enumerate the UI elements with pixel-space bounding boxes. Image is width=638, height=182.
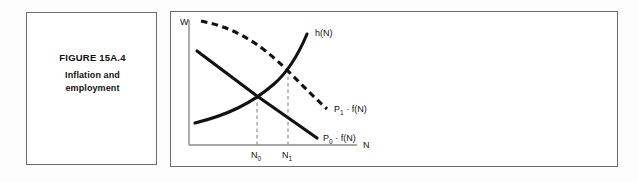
figure-number: FIGURE 15A.4	[27, 51, 158, 65]
x-tick-label-n1: N1	[282, 150, 293, 162]
x-tick-label-n0: N0	[251, 150, 262, 162]
figure-caption-box: FIGURE 15A.4 Inflation and employment	[26, 12, 157, 165]
x-axis-label: N	[363, 140, 370, 150]
figure-title-line-2: employment	[27, 82, 158, 95]
curve-label-p1-f-n: P1 · f(N)	[334, 104, 367, 116]
curve-label-p0-suffix: · f(N)	[333, 133, 356, 143]
curve-label-p1-suffix: · f(N)	[344, 104, 367, 114]
curve-h-n	[195, 34, 307, 123]
figure-title-line-1: Inflation and	[27, 69, 158, 82]
chart-svg: W N h(N) P1 · f(N) P0 · f(N) N	[171, 12, 619, 168]
curve-label-h-n: h(N)	[315, 28, 333, 38]
y-axis-label: W	[180, 17, 189, 27]
figure-caption-text: FIGURE 15A.4 Inflation and employment	[27, 51, 158, 94]
curve-label-p0-f-n: P0 · f(N)	[323, 133, 356, 145]
figure-page: FIGURE 15A.4 Inflation and employment W …	[0, 0, 638, 182]
chart-box: W N h(N) P1 · f(N) P0 · f(N) N	[170, 11, 618, 167]
x-tick-n0-subscript: 0	[258, 155, 262, 162]
x-tick-n1-subscript: 1	[289, 155, 293, 162]
